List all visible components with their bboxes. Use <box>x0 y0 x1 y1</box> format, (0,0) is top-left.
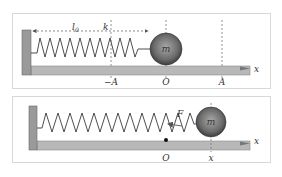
amplitude-label: A <box>218 77 226 87</box>
panel-frame <box>13 14 271 89</box>
panel-displaced: x F m O x <box>13 97 271 164</box>
mass-label: m <box>207 117 216 127</box>
wall <box>29 106 37 150</box>
neg-amplitude-label: −A <box>104 77 119 87</box>
force-label: F <box>176 109 184 119</box>
origin-label: O <box>162 77 170 87</box>
floor <box>31 66 250 75</box>
wall <box>22 30 31 75</box>
floor <box>37 141 250 150</box>
panel-equilibrium: x l0 k m −A O A <box>13 14 271 89</box>
spring-mass-diagram: x l0 k m −A O A x F m <box>0 0 282 177</box>
axis-label: x <box>254 64 259 74</box>
mass-label: m <box>162 44 171 54</box>
origin-label: O <box>162 153 170 163</box>
position-label: x <box>208 153 213 163</box>
axis-label: x <box>254 136 259 146</box>
origin-dot <box>164 138 168 142</box>
spring-constant-label: k <box>103 22 108 32</box>
